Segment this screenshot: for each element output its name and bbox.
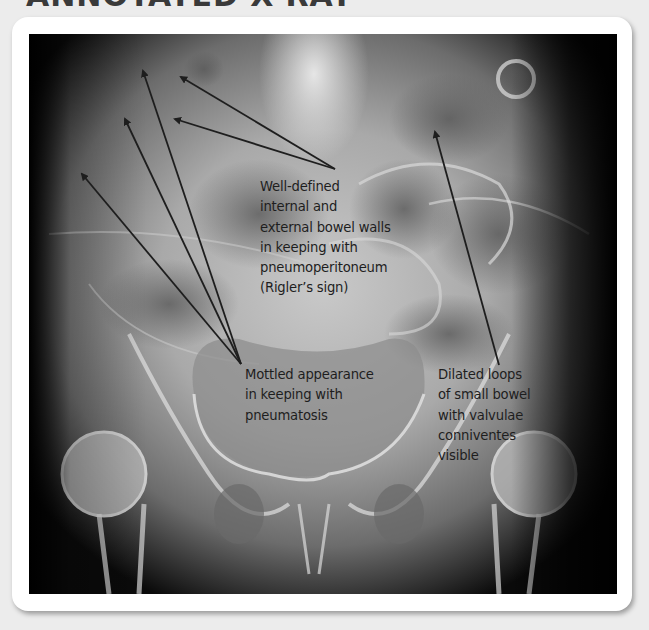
annotation-pneumatosis: Mottled appearance in keeping with pneum… xyxy=(245,365,374,426)
arrow-riglers-2 xyxy=(175,119,335,169)
xray-image: Well-defined internal and external bowel… xyxy=(29,34,617,594)
annotation-arrows xyxy=(29,34,617,594)
page-title: ANNOTATED X-RAY xyxy=(26,0,354,13)
arrow-pneumatosis-2 xyxy=(125,119,241,364)
arrow-pneumatosis-1 xyxy=(143,71,241,364)
arrow-riglers-1 xyxy=(181,77,335,169)
arrow-dilated-loops xyxy=(435,132,499,365)
annotation-riglers-sign: Well-defined internal and external bowel… xyxy=(260,177,391,299)
arrow-pneumatosis-3 xyxy=(82,174,241,364)
annotation-dilated-loops: Dilated loops of small bowel with valvul… xyxy=(438,365,530,466)
